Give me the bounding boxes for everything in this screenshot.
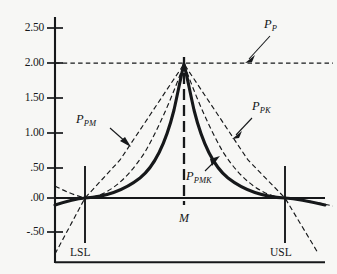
ppk-label-base: P [252, 99, 260, 113]
ppm-label-base: P [76, 112, 84, 126]
lsl-label: LSL [70, 246, 90, 258]
ppm-label: PPM [76, 110, 96, 127]
ppk-label-sub: PK [260, 105, 271, 115]
y-tick-label-2.00: 2.00 [6, 56, 44, 68]
y-tick-label-2.50: 2.50 [6, 21, 44, 33]
y-tick-label-0.50: .50 [6, 161, 44, 173]
ppmk-label: PPMK [186, 167, 212, 184]
y-tick-label-1.00: 1.00 [6, 126, 44, 138]
y-tick-label-1.50: 1.50 [6, 91, 44, 103]
y-tick-label--0.50: -.50 [6, 225, 44, 237]
ppmk-label-base: P [186, 169, 194, 183]
ppm-label-sub: PM [84, 118, 96, 128]
y-tick-label-0.00: .00 [6, 191, 44, 203]
capability-index-chart [0, 0, 337, 274]
center-label-m: M [179, 211, 189, 226]
usl-label: USL [270, 246, 292, 258]
pp-label-sub: P [272, 23, 277, 33]
pp-label: PP [264, 15, 277, 32]
ppk-label: PPK [252, 97, 271, 114]
chart-background [0, 0, 337, 274]
pp-label-base: P [264, 17, 272, 31]
ppmk-label-sub: PMK [194, 175, 212, 185]
